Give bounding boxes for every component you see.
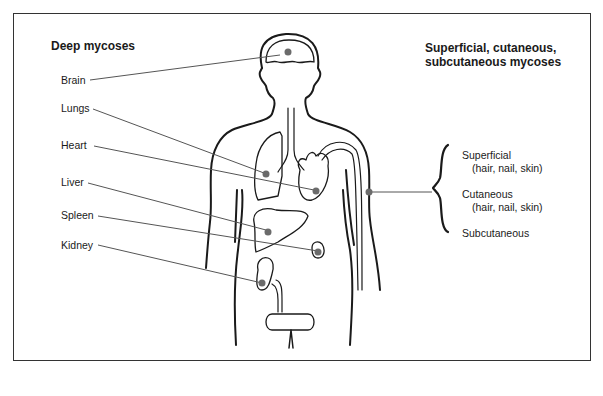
marker-lungs [263, 171, 270, 178]
marker-heart [313, 188, 320, 195]
marker-brain [285, 49, 292, 56]
torso-right [343, 190, 352, 345]
leader-liver [88, 183, 266, 230]
marker-spleen [315, 249, 322, 256]
leg-gap [289, 330, 293, 348]
arm-left-inner [235, 190, 237, 242]
aorta-vessel [318, 142, 362, 290]
ureter [272, 280, 282, 312]
marker-kidney [259, 280, 266, 287]
bladder-outline [266, 314, 314, 330]
human-body-figure [0, 0, 603, 396]
marker-liver [265, 229, 272, 236]
brace-icon [433, 145, 448, 232]
leader-brain [90, 55, 280, 80]
marker-skin [366, 189, 373, 196]
lung-outline [255, 132, 282, 200]
